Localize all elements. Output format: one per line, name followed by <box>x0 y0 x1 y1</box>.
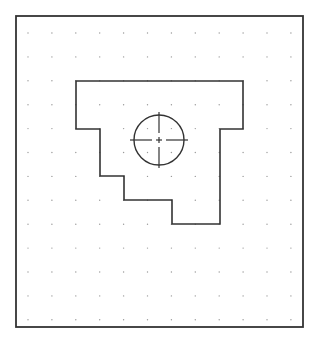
grid-dot <box>75 56 76 57</box>
grid-dot <box>266 224 267 225</box>
grid-dot <box>147 104 148 105</box>
grid-dot <box>75 247 76 248</box>
grid-dot <box>27 271 28 272</box>
grid-dot <box>51 56 52 57</box>
grid-dot <box>195 319 196 320</box>
grid-dot <box>75 319 76 320</box>
grid-dot <box>99 319 100 320</box>
grid-dot <box>51 32 52 33</box>
grid-dot <box>123 32 124 33</box>
grid-dot <box>290 80 291 81</box>
grid-dot <box>51 176 52 177</box>
grid-dot <box>242 224 243 225</box>
center-mark-icon <box>130 112 188 168</box>
grid-dot <box>195 152 196 153</box>
grid-dot <box>242 56 243 57</box>
grid-dot <box>219 319 220 320</box>
grid-dot <box>171 56 172 57</box>
grid-dot <box>147 224 148 225</box>
grid-dot <box>219 32 220 33</box>
grid-dot <box>266 80 267 81</box>
grid-dot <box>242 152 243 153</box>
grid-dot <box>171 32 172 33</box>
grid-dot <box>75 176 76 177</box>
grid-dot <box>51 295 52 296</box>
grid-dot <box>290 176 291 177</box>
grid-dot <box>290 56 291 57</box>
grid-dot <box>290 128 291 129</box>
grid-dot <box>242 247 243 248</box>
grid-dot <box>75 32 76 33</box>
grid-dot <box>171 295 172 296</box>
grid-dot <box>147 128 148 129</box>
grid-dot <box>266 104 267 105</box>
grid-dot <box>219 271 220 272</box>
grid-dot <box>99 224 100 225</box>
grid-dot <box>266 200 267 201</box>
grid-dot <box>147 247 148 248</box>
grid-dot <box>242 200 243 201</box>
grid-dot <box>27 176 28 177</box>
grid-dot <box>123 295 124 296</box>
grid-dot <box>195 295 196 296</box>
grid-dot <box>123 247 124 248</box>
grid-dot <box>290 32 291 33</box>
grid-dot <box>171 104 172 105</box>
grid-dot <box>51 128 52 129</box>
grid-dot <box>51 200 52 201</box>
grid-dot <box>290 224 291 225</box>
grid-dot <box>242 295 243 296</box>
grid-dot <box>266 128 267 129</box>
grid-dot <box>195 104 196 105</box>
grid-dot <box>27 295 28 296</box>
grid-dot <box>75 295 76 296</box>
grid-dot <box>290 247 291 248</box>
grid-dot <box>171 247 172 248</box>
grid-dot <box>123 152 124 153</box>
grid-dot <box>27 224 28 225</box>
grid-dot <box>147 152 148 153</box>
grid-dot <box>147 32 148 33</box>
grid-dot <box>195 200 196 201</box>
drawing-frame <box>16 16 303 327</box>
grid-dot <box>290 104 291 105</box>
grid-dot <box>99 200 100 201</box>
grid-dot <box>51 319 52 320</box>
grid-dot <box>266 176 267 177</box>
grid-dot <box>99 32 100 33</box>
grid-dot <box>171 176 172 177</box>
grid-dot <box>27 56 28 57</box>
grid-dot <box>266 56 267 57</box>
grid-dot <box>75 152 76 153</box>
grid-dot <box>99 295 100 296</box>
grid-dot <box>123 271 124 272</box>
grid-dot <box>242 176 243 177</box>
grid-dot <box>266 32 267 33</box>
grid-dot <box>290 271 291 272</box>
grid-dot <box>219 56 220 57</box>
grid-dot <box>99 104 100 105</box>
grid-dot <box>27 80 28 81</box>
grid-dot <box>171 152 172 153</box>
grid-dot <box>51 224 52 225</box>
grid-dot <box>195 56 196 57</box>
grid-dot <box>219 247 220 248</box>
grid-dot <box>266 247 267 248</box>
grid-dot <box>171 271 172 272</box>
grid-dot <box>27 200 28 201</box>
grid-dot <box>171 319 172 320</box>
grid-dot <box>219 295 220 296</box>
grid-dot <box>195 128 196 129</box>
grid-dot <box>99 271 100 272</box>
grid-dot <box>51 80 52 81</box>
cad-drawing-canvas[interactable] <box>0 0 319 341</box>
grid-dot <box>171 128 172 129</box>
grid-dot <box>290 295 291 296</box>
grid-dot <box>266 271 267 272</box>
grid-dot <box>51 247 52 248</box>
grid-dot <box>195 271 196 272</box>
grid-dot <box>290 200 291 201</box>
grid-dot <box>51 104 52 105</box>
grid-dot <box>51 152 52 153</box>
grid-dot <box>147 176 148 177</box>
